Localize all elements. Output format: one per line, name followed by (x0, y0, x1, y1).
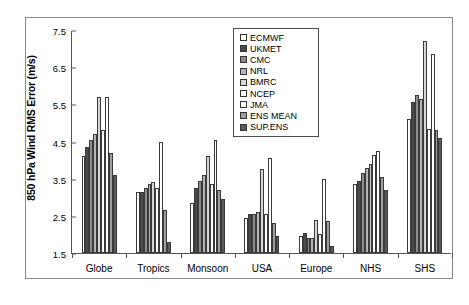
bar (330, 246, 334, 253)
bar-group (407, 31, 442, 253)
x-tick-mark (452, 253, 453, 258)
legend-item: SUP.ENS (240, 122, 314, 133)
bar-group (190, 31, 225, 253)
legend-item: JMA (240, 99, 314, 110)
legend-label: CMC (250, 55, 271, 65)
legend-label: NRL (250, 66, 268, 76)
y-tick-mark (72, 216, 76, 217)
y-axis-tick: 5.5 (53, 100, 72, 111)
x-tick-mark (72, 253, 73, 258)
legend-swatch (240, 79, 247, 86)
legend-swatch (240, 124, 247, 131)
x-tick-mark (289, 253, 290, 258)
bar-group (82, 31, 117, 253)
y-tick-mark (72, 142, 76, 143)
y-tick-mark (72, 31, 76, 32)
y-axis-tick: 3.5 (53, 174, 72, 185)
legend-item: UKMET (240, 43, 314, 54)
x-tick-mark (126, 253, 127, 258)
y-axis-label: 850 hPa Wind RMS Error (m/s) (25, 28, 37, 228)
legend-swatch (240, 101, 247, 108)
legend-swatch (240, 112, 247, 119)
x-axis-category-label: Europe (300, 263, 332, 274)
legend-label: SUP.ENS (250, 122, 288, 132)
x-tick-mark (343, 253, 344, 258)
legend-label: ECMWF (250, 33, 284, 43)
legend-item: BMRC (240, 77, 314, 88)
bar (167, 242, 171, 253)
y-tick-mark (72, 179, 76, 180)
bar (438, 138, 442, 253)
legend-label: NCEP (250, 89, 275, 99)
x-axis-category-label: USA (252, 263, 273, 274)
legend-swatch (240, 90, 247, 97)
legend-swatch (240, 45, 247, 52)
legend-item: ENS MEAN (240, 110, 314, 121)
legend-swatch (240, 68, 247, 75)
legend-swatch (240, 34, 247, 41)
chart-legend: ECMWFUKMETCMCNRLBMRCNCEPJMAENS MEANSUP.E… (233, 28, 319, 137)
legend-item: CMC (240, 54, 314, 65)
y-tick-mark (72, 68, 76, 69)
legend-label: JMA (250, 100, 268, 110)
y-axis-tick: 6.5 (53, 63, 72, 74)
bar-group (136, 31, 171, 253)
x-tick-mark (181, 253, 182, 258)
x-tick-mark (398, 253, 399, 258)
y-axis-tick: 4.5 (53, 137, 72, 148)
legend-item: NRL (240, 66, 314, 77)
x-axis-category-label: NHS (360, 263, 381, 274)
bar (276, 236, 280, 253)
x-axis-category-label: Globe (86, 263, 113, 274)
x-axis-category-label: Tropics (137, 263, 169, 274)
y-axis-tick: 2.5 (53, 211, 72, 222)
y-axis-tick: 1.5 (53, 249, 72, 260)
legend-swatch (240, 56, 247, 63)
bar (113, 175, 117, 253)
bar (221, 199, 225, 253)
chart-figure: 850 hPa Wind RMS Error (m/s) 1.52.53.54.… (0, 0, 469, 305)
x-tick-mark (235, 253, 236, 258)
x-axis-category-label: Monsoon (187, 263, 228, 274)
bar (384, 190, 388, 253)
legend-item: NCEP (240, 88, 314, 99)
bar-group (353, 31, 388, 253)
y-axis-tick: 7.5 (53, 26, 72, 37)
legend-label: BMRC (250, 77, 277, 87)
legend-label: UKMET (250, 44, 282, 54)
x-axis-category-label: SHS (415, 263, 436, 274)
legend-item: ECMWF (240, 32, 314, 43)
y-tick-mark (72, 105, 76, 106)
legend-label: ENS MEAN (250, 111, 297, 121)
